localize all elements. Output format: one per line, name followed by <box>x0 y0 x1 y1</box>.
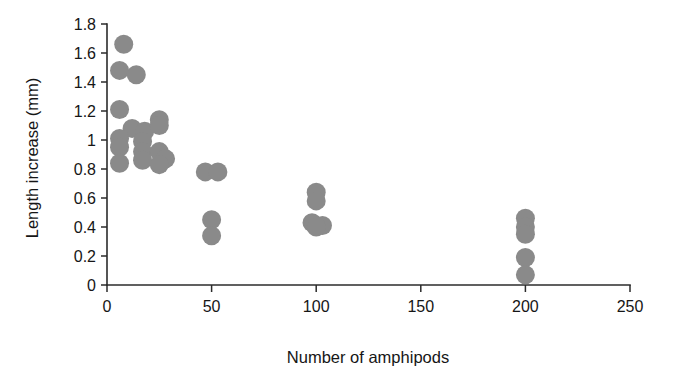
data-point <box>150 155 169 174</box>
scatter-plot-figure: 00.20.40.60.811.21.41.61.8 0501001502002… <box>0 0 683 384</box>
data-point <box>114 35 133 54</box>
data-point <box>202 226 221 245</box>
y-axis: 00.20.40.60.811.21.41.61.8 <box>74 16 107 294</box>
data-point <box>110 61 129 80</box>
data-point <box>516 265 535 284</box>
data-point <box>127 65 146 84</box>
data-point <box>307 218 326 237</box>
y-axis-label: Length increase (mm) <box>23 78 41 238</box>
data-point <box>516 248 535 267</box>
data-point <box>208 162 227 181</box>
data-point <box>307 191 326 210</box>
y-axis-tick-label: 1.8 <box>74 16 96 33</box>
plot-canvas: 00.20.40.60.811.21.41.61.8 0501001502002… <box>0 0 683 384</box>
data-point <box>110 100 129 119</box>
y-axis-tick-label: 0.8 <box>74 161 96 178</box>
data-point <box>150 116 169 135</box>
y-axis-tick-label: 0.6 <box>74 190 96 207</box>
x-axis-tick-label: 150 <box>407 298 434 315</box>
y-axis-tick-label: 1 <box>87 132 96 149</box>
x-axis-tick-label: 0 <box>103 298 112 315</box>
data-point <box>110 154 129 173</box>
x-axis: 050100150200250 <box>103 285 644 315</box>
x-axis-tick-label: 200 <box>512 298 539 315</box>
x-axis-tick-label: 50 <box>203 298 221 315</box>
y-axis-tick-label: 1.2 <box>74 103 96 120</box>
data-point <box>516 225 535 244</box>
data-point <box>133 151 152 170</box>
y-axis-tick-label: 1.4 <box>74 74 96 91</box>
x-axis-label: Number of amphipods <box>287 348 449 366</box>
y-axis-tick-label: 1.6 <box>74 45 96 62</box>
x-axis-tick-label: 250 <box>617 298 644 315</box>
x-axis-tick-label: 100 <box>303 298 330 315</box>
y-axis-tick-label: 0 <box>87 277 96 294</box>
y-axis-tick-label: 0.2 <box>74 248 96 265</box>
data-points <box>110 35 535 285</box>
y-axis-tick-label: 0.4 <box>74 219 96 236</box>
